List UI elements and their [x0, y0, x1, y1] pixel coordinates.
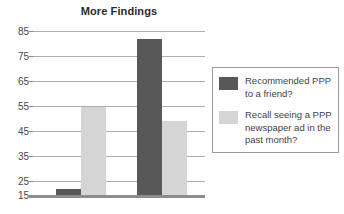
- y-axis: 85 75 65 55 45 35 25 15: [0, 27, 29, 199]
- y-tick-label-65: 65: [3, 77, 29, 87]
- bar-dark-1[interactable]: [56, 189, 81, 195]
- bar-dark-2[interactable]: [137, 39, 162, 195]
- bars-layer: [33, 27, 205, 196]
- bar-light-1[interactable]: [81, 107, 106, 195]
- y-tick-label-35: 35: [3, 152, 29, 162]
- legend-label-recall: Recall seeing a PPP newspaper ad in the …: [245, 109, 337, 147]
- y-tick-label-55: 55: [3, 102, 29, 112]
- chart-legend: Recommended PPP to a friend? Recall seei…: [212, 67, 339, 153]
- bar-chart: More Findings 85 75 65 55 45 35 25 15: [0, 0, 344, 214]
- y-tick-label-75: 75: [3, 52, 29, 62]
- bar-light-2[interactable]: [162, 121, 187, 195]
- y-tick-label-25: 25: [3, 177, 29, 187]
- legend-swatch-icon-dark: [219, 77, 238, 90]
- chart-title: More Findings: [33, 5, 205, 17]
- y-tick-label-85: 85: [3, 27, 29, 37]
- y-tick-label-15: 15: [3, 191, 29, 201]
- legend-entry-recommended[interactable]: Recommended PPP to a friend?: [213, 75, 340, 100]
- legend-entry-recall[interactable]: Recall seeing a PPP newspaper ad in the …: [213, 109, 340, 147]
- legend-swatch-icon-light: [219, 111, 238, 124]
- legend-label-recommended: Recommended PPP to a friend?: [245, 75, 337, 100]
- y-tick-label-45: 45: [3, 127, 29, 137]
